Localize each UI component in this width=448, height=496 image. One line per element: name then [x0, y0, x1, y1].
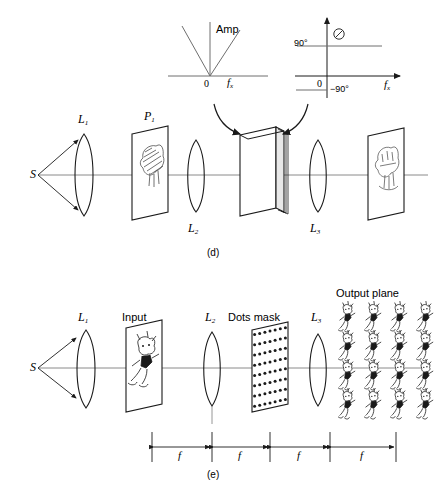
mask-dot: [274, 370, 277, 373]
replicated-image: [390, 301, 407, 332]
lens-L3-e: [310, 334, 327, 406]
chart-amp-xlabel: fx: [227, 77, 233, 90]
replicated-image: [364, 301, 381, 332]
lens-L2-d: [188, 140, 205, 212]
chart-amp-origin: 0: [204, 79, 209, 89]
mask-dot: [274, 400, 277, 403]
mask-dot: [253, 333, 256, 336]
replicated-image: [416, 388, 433, 419]
input-plane-e: [126, 320, 162, 412]
mask-dot: [274, 390, 277, 393]
chart-phase-origin: 0: [317, 79, 322, 89]
panel-d-lens1-label: L1: [78, 113, 88, 127]
mask-dot: [258, 373, 261, 376]
dimension-label-f-4: f: [360, 450, 363, 461]
panel-d-caption: (d): [207, 248, 219, 258]
mask-dot: [279, 348, 282, 351]
mask-dot: [279, 368, 282, 371]
mask-dot: [253, 354, 256, 357]
mask-dot: [263, 341, 266, 344]
mask-dot: [269, 360, 272, 363]
mask-dot: [263, 382, 266, 385]
mask-dot: [258, 342, 261, 345]
mask-dot: [253, 374, 256, 377]
panel-e-input-label: Input: [122, 312, 146, 323]
replicated-image: [416, 330, 433, 361]
mask-dot: [258, 393, 261, 396]
mask-dot: [279, 379, 282, 382]
replicated-image: [390, 388, 407, 419]
panel-e-lens2-label: L2: [205, 311, 215, 325]
mask-dot: [279, 338, 282, 341]
mask-dot: [263, 392, 266, 395]
output-plane-d: [368, 128, 404, 220]
mask-dot: [274, 329, 277, 332]
lens-L1-e: [77, 330, 95, 408]
panel-d-lens3-label: L3: [310, 222, 320, 236]
mask-dot: [284, 326, 287, 329]
chart-amp-title: Amp: [216, 24, 239, 35]
mask-dot: [263, 403, 266, 406]
mask-dot: [263, 372, 266, 375]
mask-dot: [279, 399, 282, 402]
mask-dot: [284, 388, 287, 391]
mask-dot: [269, 371, 272, 374]
lens-L2-e: [204, 332, 221, 424]
mask-dot: [258, 332, 261, 335]
replicated-image: [338, 330, 355, 361]
mask-dot: [284, 398, 287, 401]
mask-dot: [269, 330, 272, 333]
mask-dot: [279, 389, 282, 392]
mask-dot: [284, 347, 287, 350]
mask-dot: [269, 391, 272, 394]
mask-dot: [284, 336, 287, 339]
figure-optical-system: Amp 0 fx 90° 0 −90° fx S L1 P1 L2 L3 (d)…: [0, 0, 448, 496]
mask-dot: [274, 359, 277, 362]
replicated-image: [364, 330, 381, 361]
mask-dot: [263, 331, 266, 334]
mask-dot: [274, 349, 277, 352]
mask-dot: [258, 404, 261, 407]
filter-insert-arrows-d: [214, 104, 308, 134]
mask-dot: [284, 367, 287, 370]
dots-mask-e: [252, 322, 288, 412]
mask-dot: [253, 405, 256, 408]
panel-e-optics: [38, 301, 433, 462]
dimension-label-f-2: f: [238, 450, 241, 461]
mask-dot: [269, 381, 272, 384]
chart-phase-tick-minus90: −90°: [330, 85, 349, 94]
mask-dot: [253, 395, 256, 398]
mask-dot: [263, 351, 266, 354]
mask-dot: [269, 350, 272, 353]
mask-dot: [284, 357, 287, 360]
panel-d-lens2-label: L2: [188, 222, 198, 236]
replicated-image: [390, 359, 407, 390]
mask-dot: [263, 362, 266, 365]
replicated-image: [390, 330, 407, 361]
panel-e-lens3-label: L3: [311, 311, 321, 325]
panel-e-source-label: S: [30, 361, 36, 373]
dimension-label-f-3: f: [297, 450, 300, 461]
panel-e-caption: (e): [207, 470, 219, 480]
panel-d-source-label: S: [30, 168, 36, 180]
mask-dot: [274, 339, 277, 342]
mask-dot: [258, 383, 261, 386]
output-plane-grid-e: [338, 301, 433, 419]
panel-e-lens1-label: L1: [78, 311, 88, 325]
mask-dot: [269, 401, 272, 404]
panel-d-optics: [38, 104, 428, 220]
dimension-label-f-1: f: [178, 450, 181, 461]
replicated-image: [364, 359, 381, 390]
mask-dot: [279, 327, 282, 330]
replicated-image: [338, 359, 355, 390]
replicated-image: [364, 388, 381, 419]
mask-dot: [258, 352, 261, 355]
chart-phase-tick-90: 90°: [294, 39, 308, 48]
fourier-plane-filter-d: [240, 127, 288, 216]
mask-dot: [284, 377, 287, 380]
replicated-image: [338, 301, 355, 332]
replicated-image: [416, 301, 433, 332]
replicated-image: [338, 388, 355, 419]
mask-dot: [279, 358, 282, 361]
mask-dot: [253, 343, 256, 346]
